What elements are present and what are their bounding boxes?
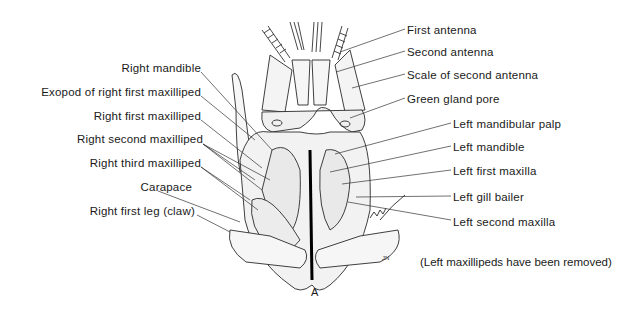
label-left-second-maxilla: Left second maxilla xyxy=(453,215,555,229)
label-left-mandible: Left mandible xyxy=(453,140,525,154)
figure-note: (Left maxillipeds have been removed) xyxy=(420,256,612,268)
label-left-gill-bailer: Left gill bailer xyxy=(453,190,524,204)
label-right-second-maxilliped: Right second maxilliped xyxy=(77,132,203,146)
label-right-first-maxilliped: Right first maxilliped xyxy=(94,109,201,123)
figure-caption: A xyxy=(311,286,318,298)
label-second-antenna: Second antenna xyxy=(407,45,494,59)
label-first-antenna: First antenna xyxy=(407,23,477,37)
label-right-first-leg-claw: Right first leg (claw) xyxy=(90,204,195,218)
artist-signature: JN xyxy=(382,255,389,261)
antennae xyxy=(262,22,348,62)
label-scale-second-antenna: Scale of second antenna xyxy=(407,68,538,82)
label-right-mandible: Right mandible xyxy=(121,61,201,75)
label-right-third-maxilliped: Right third maxilliped xyxy=(90,156,201,170)
label-green-gland-pore: Green gland pore xyxy=(407,92,500,106)
label-left-mandibular-palp: Left mandibular palp xyxy=(453,117,561,131)
label-left-first-maxilla: Left first maxilla xyxy=(453,164,536,178)
label-exopod-right-first-maxilliped: Exopod of right first maxilliped xyxy=(41,85,201,99)
label-carapace: Carapace xyxy=(141,180,192,194)
